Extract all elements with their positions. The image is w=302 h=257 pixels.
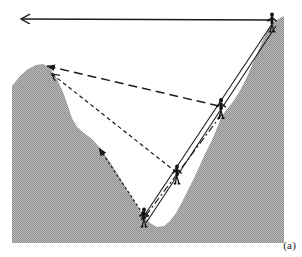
figure-caption: (a) <box>283 239 296 251</box>
figure-panel: (a) <box>0 0 302 257</box>
valley-diagram <box>0 0 302 257</box>
